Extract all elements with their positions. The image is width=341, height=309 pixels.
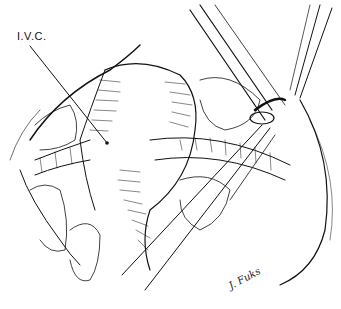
bowel-loop-left [35,105,77,150]
ligature [250,112,274,124]
ivc-leader-dot [105,141,109,145]
ivc-vessel-outline [105,64,196,270]
bowel-loop-right [200,78,260,131]
retractor-instrument [190,10,265,120]
vessel-hatching [40,80,271,250]
forceps-instrument [295,5,320,95]
anatomy-drawing [0,0,341,309]
ivc-label: I.V.C. [17,30,47,42]
illustration: I.V.C. J. Fuks [0,0,341,309]
